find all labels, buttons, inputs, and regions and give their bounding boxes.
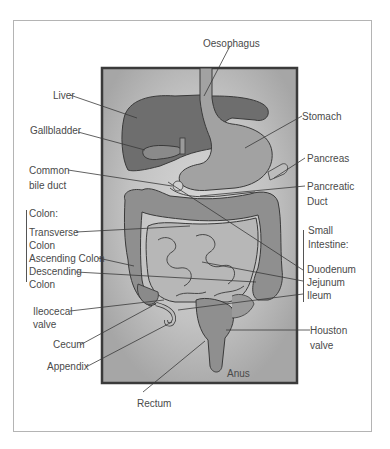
label-small-intestine-2: Intestine: [308, 238, 349, 251]
label-pancreatic-duct-2: Duct [307, 195, 328, 208]
label-transverse-colon-2: Colon [29, 239, 55, 252]
label-houston-valve-2: valve [310, 339, 333, 352]
label-appendix: Appendix [47, 360, 89, 373]
label-ileum: Ileum [307, 289, 331, 302]
label-stomach: Stomach [302, 110, 341, 123]
small-intestine-shape [146, 218, 258, 302]
label-descending-colon-2: Colon [29, 278, 55, 291]
label-ileocecal-valve-1: Ileocecal [33, 305, 72, 318]
label-pancreas: Pancreas [307, 152, 349, 165]
label-descending-colon-1: Descending [29, 265, 82, 278]
label-colon-heading: Colon: [29, 207, 58, 220]
label-common-bile-duct-2: bile duct [29, 179, 66, 192]
label-gallbladder: Gallbladder [30, 124, 81, 137]
label-common-bile-duct-1: Common [29, 164, 70, 177]
label-pancreatic-duct-1: Pancreatic [307, 180, 354, 193]
label-jejunum: Jejunum [307, 276, 345, 289]
colon-bracket [26, 210, 27, 282]
label-small-intestine-1: Small [308, 224, 333, 237]
label-oesophagus: Oesophagus [203, 37, 260, 50]
label-transverse-colon-1: Transverse [29, 226, 79, 239]
label-duodenum: Duodenum [307, 263, 356, 276]
label-houston-valve-1: Houston [310, 324, 347, 337]
label-cecum: Cecum [53, 338, 85, 351]
label-anus: Anus [227, 367, 250, 380]
small-intestine-bracket [303, 230, 304, 302]
label-ascending-colon: Ascending Colon [29, 252, 105, 265]
label-rectum: Rectum [137, 397, 171, 410]
label-liver: Liver [53, 89, 75, 102]
label-ileocecal-valve-2: valve [33, 318, 56, 331]
